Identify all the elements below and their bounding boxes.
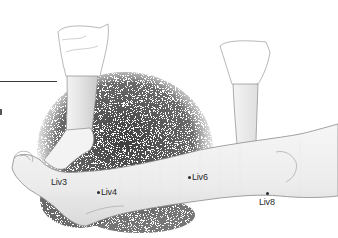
acupressure-illustration: Liv3 Liv4 Liv6 Liv8 [0, 0, 338, 238]
point-dot-liv4 [97, 191, 100, 194]
callout-leader-line [0, 81, 57, 82]
point-label-liv6: Liv6 [192, 173, 208, 182]
point-label-liv3: Liv3 [51, 178, 67, 187]
point-dot-liv6 [188, 176, 191, 179]
cropped-label-fragment [0, 109, 2, 115]
illustration-drawing [0, 0, 338, 238]
point-label-liv8: Liv8 [259, 198, 275, 207]
point-dot-liv8 [266, 192, 269, 195]
point-label-liv4: Liv4 [101, 188, 117, 197]
